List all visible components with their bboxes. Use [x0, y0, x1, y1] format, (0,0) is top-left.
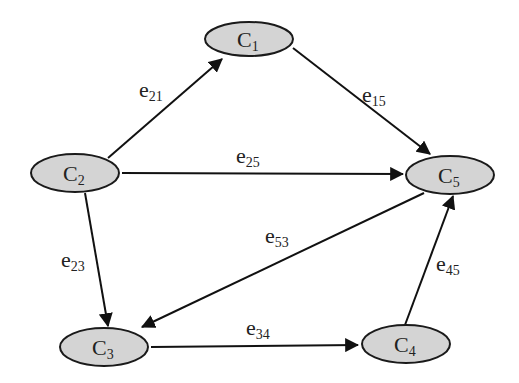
edge-e34 [151, 345, 358, 347]
node-c3: C3 [60, 328, 148, 366]
edge-label-e34: e34 [246, 315, 270, 342]
edge-label-e15: e15 [362, 82, 386, 109]
node-c5: C5 [406, 156, 494, 194]
edge-label-e23: e23 [61, 247, 85, 274]
edge-e53 [142, 193, 424, 327]
edge-e25 [122, 173, 403, 174]
edge-label-e53: e53 [265, 223, 289, 250]
edge-e45 [405, 196, 453, 325]
node-c2: C2 [31, 154, 119, 192]
edge-e23 [85, 193, 108, 326]
node-c1: C1 [205, 22, 293, 56]
graph-diagram: C1 C2 C3 C4 C5 e21 e15 e25 e23 e53 e34 e… [0, 0, 519, 383]
edge-label-e21: e21 [139, 77, 163, 104]
edge-label-e45: e45 [436, 251, 460, 278]
edge-e21 [108, 59, 222, 158]
node-c4: C4 [362, 325, 450, 363]
edge-label-e25: e25 [236, 143, 260, 170]
